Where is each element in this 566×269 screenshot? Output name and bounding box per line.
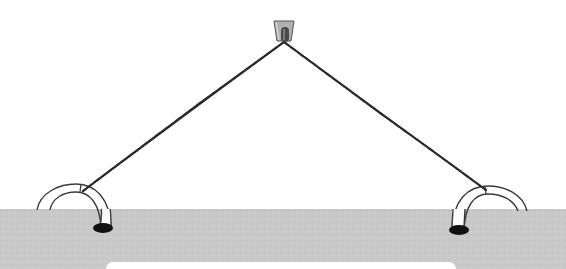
rope <box>83 42 486 191</box>
rope-hook-diagram <box>0 0 566 269</box>
ground-slab <box>0 209 566 269</box>
ceiling-anchor <box>274 21 294 42</box>
right-hook-hole <box>449 225 469 235</box>
bottom-strip <box>106 262 456 269</box>
left-hook-hole <box>93 223 113 233</box>
